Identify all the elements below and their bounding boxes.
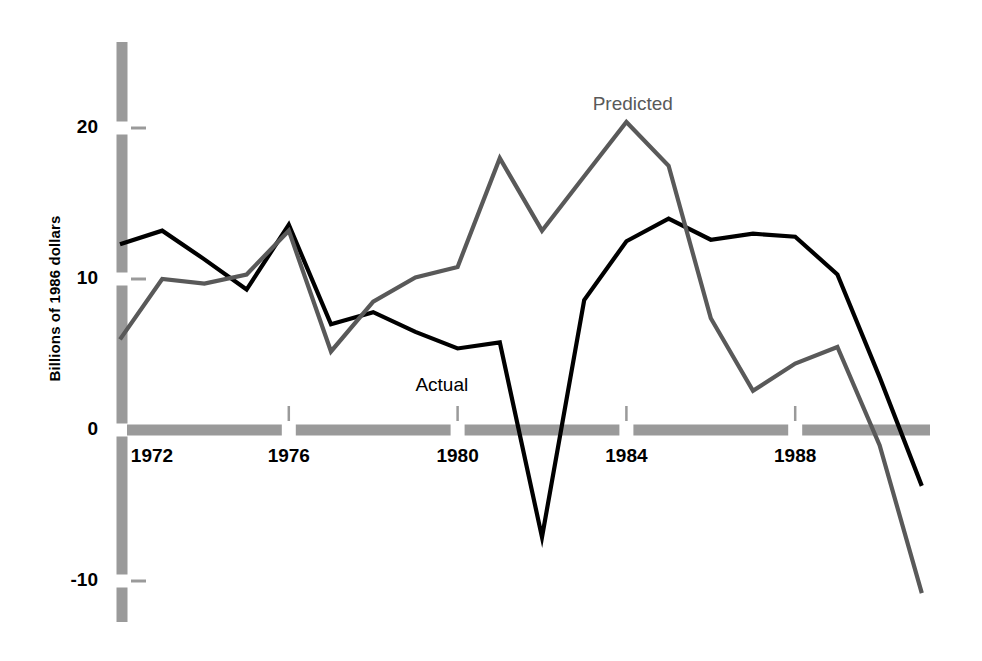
x-tick-label-0: 1972 [97, 445, 207, 467]
chart-plot-area [0, 0, 982, 661]
x-axis-bar-segment-1 [296, 425, 451, 436]
series-label-actual: Actual [415, 374, 468, 396]
y-axis-bar-segment-2 [117, 286, 128, 424]
y-tick-label-1: 10 [26, 267, 98, 289]
chart-container: Billions of 1986 dollars 20100-10 197219… [0, 0, 982, 661]
series-label-predicted: Predicted [593, 93, 673, 115]
y-axis-title: Billions of 1986 dollars [46, 149, 63, 449]
x-tick-label-2: 1980 [403, 445, 513, 467]
series-layer [120, 122, 922, 593]
x-axis-bar-segment-3 [633, 425, 788, 436]
x-tick-label-4: 1988 [740, 445, 850, 467]
y-tick-label-2: 0 [26, 418, 98, 440]
series-line-actual [120, 219, 922, 538]
y-axis-bar-segment-4 [117, 588, 128, 623]
y-tick-label-3: -10 [26, 569, 98, 591]
x-tick-label-1: 1976 [234, 445, 344, 467]
series-line-predicted [120, 122, 922, 593]
y-axis-bar-segment-0 [117, 42, 128, 122]
y-axis-bar-segment-1 [117, 135, 128, 273]
x-axis-bar-segment-2 [465, 425, 620, 436]
axis-layer [117, 42, 931, 622]
x-tick-label-3: 1984 [571, 445, 681, 467]
x-axis-bar-segment-4 [802, 425, 930, 436]
y-tick-label-0: 20 [26, 116, 98, 138]
x-axis-bar-segment-0 [127, 425, 282, 436]
